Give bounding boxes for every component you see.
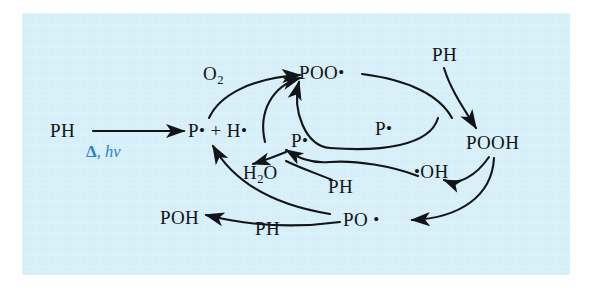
species-p-radical-text: P xyxy=(188,120,199,141)
species-poh-text: POH xyxy=(160,207,199,228)
species-o2-subscript: 2 xyxy=(217,73,223,87)
species-p-radical-mid: P• xyxy=(291,131,308,150)
species-po-radical: PO • xyxy=(343,210,380,229)
radical-dot-icon: • xyxy=(241,121,247,140)
species-water-o: O xyxy=(263,162,277,183)
species-o2: O2 xyxy=(203,64,223,86)
radical-dot-icon: • xyxy=(373,210,379,229)
radical-dot-icon: • xyxy=(338,63,344,82)
species-pooh: POOH xyxy=(466,133,519,152)
condition-delta-hnu: Δ, hν xyxy=(86,143,121,161)
species-o2-text: O xyxy=(203,63,217,84)
species-ph-start-text: PH xyxy=(50,120,75,141)
species-p-h-radicals: P• + H• xyxy=(188,121,247,140)
species-ph-start: PH xyxy=(50,121,75,140)
species-po-text: PO xyxy=(343,209,368,230)
species-h-radical-text: + H xyxy=(210,120,240,141)
species-hydroxyl-text: OH xyxy=(420,161,448,182)
species-ph-mid-text: PH xyxy=(328,176,353,197)
species-water: H2O xyxy=(243,163,278,185)
species-p-radical-mid-text: P xyxy=(291,130,302,151)
radical-dot-icon: • xyxy=(302,131,308,150)
species-pooh-text: POOH xyxy=(466,132,519,153)
species-hydroxyl-radical: •OH xyxy=(414,162,449,181)
species-ph-bottom: PH xyxy=(255,219,280,238)
species-ph-bottom-text: PH xyxy=(255,218,280,239)
delta-symbol: Δ xyxy=(86,142,97,161)
radical-dot-icon: • xyxy=(199,121,205,140)
species-water-h: H xyxy=(243,162,257,183)
species-poo-radical: POO• xyxy=(299,63,345,82)
reaction-scheme-figure: PH P• + H• Δ, hν O2 POO• PH POOH P• P• H… xyxy=(0,0,594,290)
species-p-radical-arc-text: P xyxy=(375,118,386,139)
hnu-symbol: , hν xyxy=(97,142,121,161)
species-ph-top-text: PH xyxy=(432,44,457,65)
radical-dot-icon: • xyxy=(386,119,392,138)
species-ph-top: PH xyxy=(432,45,457,64)
species-p-radical-arc: P• xyxy=(375,119,392,138)
species-poh: POH xyxy=(160,208,199,227)
species-ph-mid: PH xyxy=(328,177,353,196)
species-poo-text: POO xyxy=(299,62,338,83)
